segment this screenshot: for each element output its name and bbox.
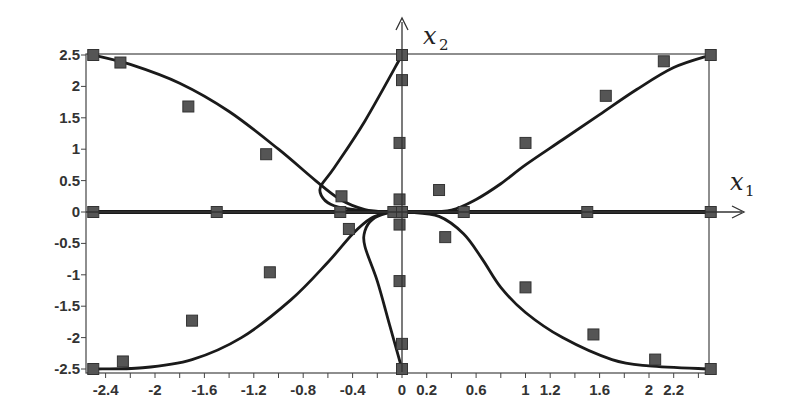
y-axis-ticks: 2.521.510.50-0.5-1-1.5-2-2.5	[54, 46, 86, 377]
data-point-square	[520, 282, 531, 293]
data-point-square	[588, 329, 599, 340]
svg-text:x: x	[423, 22, 437, 50]
svg-text:2: 2	[439, 36, 449, 54]
y-tick-label: 0.5	[59, 172, 80, 189]
x-tick-label: 2	[645, 381, 653, 398]
data-point-square	[520, 137, 531, 148]
x-axis-ticks: -2.4-2-1.6-1.2-0.8-0.400.20.611.21.622.2	[93, 373, 699, 398]
x2-axis-title: x 2	[423, 22, 449, 54]
x-tick-label: 0.6	[466, 381, 487, 398]
data-point-square	[261, 149, 272, 160]
y-tick-label: -0.5	[54, 234, 80, 251]
x-tick-label: -0.8	[290, 381, 316, 398]
x-tick-label: -2.4	[93, 381, 120, 398]
data-point-square	[394, 276, 405, 287]
data-point-square	[115, 57, 126, 68]
data-point-square	[434, 185, 445, 196]
x-tick-label: -2	[148, 381, 161, 398]
svg-text:1: 1	[745, 182, 755, 200]
curve-upper-left	[93, 55, 389, 212]
data-point-square	[264, 267, 275, 278]
data-point-square	[187, 315, 198, 326]
x-tick-label: 1	[521, 381, 529, 398]
data-point-square	[705, 50, 716, 61]
svg-text:x: x	[730, 168, 744, 196]
curve-lower-right	[408, 212, 711, 369]
data-point-square	[394, 219, 405, 230]
x-tick-label: -1.6	[191, 381, 217, 398]
y-tick-label: 2.5	[59, 46, 80, 63]
curve-upper-right	[421, 55, 711, 212]
x1-axis-title: x 1	[730, 168, 755, 200]
data-point-square	[88, 50, 99, 61]
data-point-square	[117, 356, 128, 367]
data-point-square	[705, 364, 716, 375]
coordinate-axes	[86, 18, 744, 372]
x-tick-label: -0.4	[340, 381, 367, 398]
data-point-square	[394, 194, 405, 205]
data-point-square	[343, 223, 354, 234]
x-tick-label: 0.2	[416, 381, 437, 398]
x-tick-label: 0	[398, 381, 406, 398]
data-point-square	[650, 354, 661, 365]
data-point-square	[336, 191, 347, 202]
x-tick-label: 2.2	[663, 381, 684, 398]
data-point-square	[88, 364, 99, 375]
x-tick-label: -1.2	[241, 381, 267, 398]
data-point-square	[394, 137, 405, 148]
data-point-square	[183, 101, 194, 112]
y-tick-label: 1.5	[59, 109, 80, 126]
y-tick-label: -1.5	[54, 297, 80, 314]
x-tick-label: 1.2	[540, 381, 561, 398]
y-tick-label: 2	[72, 77, 80, 94]
chart: 2.521.510.50-0.5-1-1.5-2-2.5 -2.4-2-1.6-…	[0, 0, 789, 419]
data-point-square	[440, 232, 451, 243]
y-tick-label: -2	[67, 329, 80, 346]
data-point-square	[658, 56, 669, 67]
y-tick-label: 0	[72, 203, 80, 220]
data-point-square	[600, 90, 611, 101]
y-tick-label: -2.5	[54, 360, 80, 377]
curve-lower-left	[93, 212, 389, 369]
y-tick-label: -1	[67, 266, 80, 283]
y-tick-label: 1	[72, 140, 80, 157]
curve-upper-loop	[320, 55, 402, 212]
x-tick-label: 1.6	[589, 381, 610, 398]
